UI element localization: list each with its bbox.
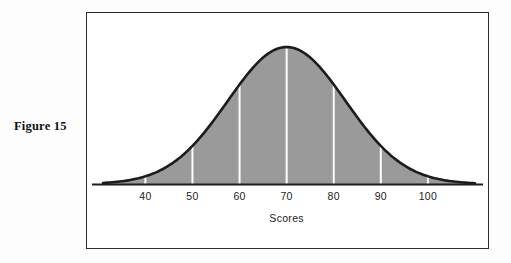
distribution-area bbox=[103, 47, 475, 184]
x-tick-label-100: 100 bbox=[419, 190, 437, 202]
chart-frame: 405060708090100 Scores bbox=[86, 12, 489, 249]
x-tick-label-80: 80 bbox=[328, 190, 340, 202]
x-tick-label-60: 60 bbox=[233, 190, 245, 202]
x-tick-label-70: 70 bbox=[280, 190, 292, 202]
x-axis-title: Scores bbox=[269, 212, 303, 224]
x-tick-label-90: 90 bbox=[375, 190, 387, 202]
figure-caption: Figure 15 bbox=[14, 119, 84, 134]
figure-container: Figure 15 405060708090100 Scores bbox=[0, 0, 511, 263]
x-tick-label-50: 50 bbox=[186, 190, 198, 202]
x-tick-label-40: 40 bbox=[139, 190, 151, 202]
